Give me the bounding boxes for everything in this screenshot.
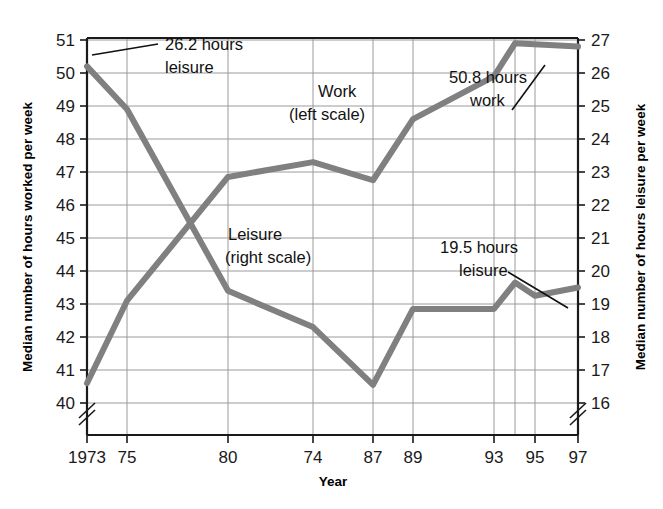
- x-axis-tick-label: 75: [118, 448, 137, 467]
- y-axis-right-tick-label: 16: [591, 394, 610, 413]
- y-axis-right-tick-label: 19: [591, 295, 610, 314]
- y-axis-right-tick-label: 20: [591, 262, 610, 281]
- x-axis-tick-label: 95: [526, 448, 545, 467]
- y-axis-left-tick-label: 44: [56, 262, 75, 281]
- y-axis-left-tick-label: 48: [56, 130, 75, 149]
- y-axis-right-tick-label: 18: [591, 328, 610, 347]
- x-axis-tick-label: 1973: [68, 448, 106, 467]
- y-axis-left-tick-label: 40: [56, 394, 75, 413]
- x-axis-tick-label: 93: [485, 448, 504, 467]
- y-axis-left-tick-label: 46: [56, 196, 75, 215]
- y-axis-left-tick-label: 42: [56, 328, 75, 347]
- y-axis-left-tick-label: 49: [56, 97, 75, 116]
- line-chart: 515049484746454443424140 272625242322212…: [0, 0, 663, 509]
- y-axis-left-tick-label: 47: [56, 163, 75, 182]
- x-axis-title: Year: [319, 474, 348, 489]
- y-axis-left-title: Median number of hours worked per week: [20, 101, 35, 372]
- y-axis-right-tick-label: 23: [591, 163, 610, 182]
- annotation-leisure-start-line2: leisure: [165, 58, 214, 76]
- x-axis-tick-label: 97: [569, 448, 588, 467]
- y-axis-right-tick-label: 25: [591, 97, 610, 116]
- y-axis-left-tick-label: 45: [56, 229, 75, 248]
- y-axis-right-tick-label: 26: [591, 64, 610, 83]
- annotation-work-end-line1: 50.8 hours: [449, 68, 527, 86]
- series-label-leisure-line1: Leisure: [228, 225, 282, 243]
- chart-container: 515049484746454443424140 272625242322212…: [0, 0, 663, 509]
- y-axis-right-tick-label: 17: [591, 361, 610, 380]
- y-axis-left-tick-label: 50: [56, 64, 75, 83]
- y-axis-right-tick-label: 24: [591, 130, 610, 149]
- x-axis-tick-label: 87: [364, 448, 383, 467]
- y-axis-left-tick-label: 43: [56, 295, 75, 314]
- annotation-leisure-start-line1: 26.2 hours: [165, 35, 243, 53]
- y-axis-right-tick-label: 22: [591, 196, 610, 215]
- y-axis-left-tick-label: 51: [56, 31, 75, 50]
- x-axis-tick-label: 80: [219, 448, 238, 467]
- y-axis-left-tick-label: 41: [56, 361, 75, 380]
- annotation-leisure-end-line1: 19.5 hours: [440, 238, 518, 256]
- annotation-work-end-line2: work: [469, 91, 506, 109]
- series-label-work-line2: (left scale): [289, 105, 365, 123]
- series-label-leisure-line2: (right scale): [225, 248, 311, 266]
- y-axis-right-tick-label: 21: [591, 229, 610, 248]
- x-axis-tick-label: 74: [304, 448, 323, 467]
- x-axis-tick-label: 89: [404, 448, 423, 467]
- y-axis-right-tick-label: 27: [591, 31, 610, 50]
- series-label-work-line1: Work: [318, 82, 357, 100]
- y-axis-right-title: Median number of hours leisure per week: [633, 103, 648, 370]
- annotation-leisure-end-line2: leisure: [459, 261, 508, 279]
